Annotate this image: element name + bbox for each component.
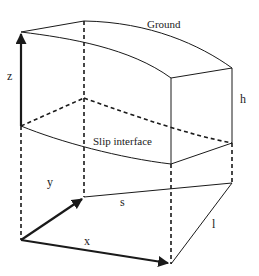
height-label: h [240, 92, 246, 106]
x-axis-arrow [21, 240, 168, 263]
x-axis-label: x [84, 234, 90, 248]
slip-interface-label: Slip interface [93, 135, 152, 147]
z-axis-label: z [7, 69, 12, 83]
ground-front-curve [21, 32, 171, 78]
block-diagram: Ground Slip interface z y x h l s [0, 0, 259, 276]
y-axis-label: y [47, 175, 53, 189]
ground-front-right-edge [171, 68, 232, 78]
ground-label: Ground [147, 18, 181, 30]
length-label: l [212, 217, 216, 231]
ground-back-edge [21, 21, 84, 32]
diagram-canvas: Ground Slip interface z y x h l s [0, 0, 259, 276]
slip-interface-back-left-dashed [21, 98, 84, 126]
bottom-right-edge-l [171, 183, 232, 264]
bottom-back-edge [84, 183, 232, 197]
y-axis-arrow [21, 199, 82, 240]
surface-label: s [120, 195, 125, 209]
slip-interface-right-edge [171, 143, 232, 164]
